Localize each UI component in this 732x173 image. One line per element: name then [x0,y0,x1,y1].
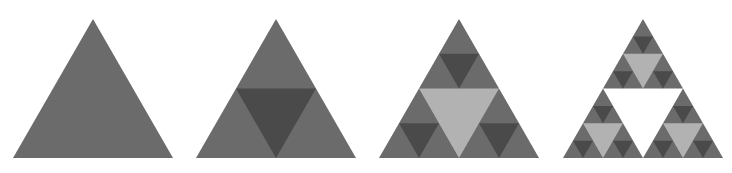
sierpinski-group-depth-3 [563,19,723,158]
sierpinski-svg-3 [0,0,732,173]
sierpinski-figure-strip: Stage 0Stage 1Stage 2Stage 3 [0,0,732,173]
sierpinski-figure-3: Stage 3 [0,0,732,173]
